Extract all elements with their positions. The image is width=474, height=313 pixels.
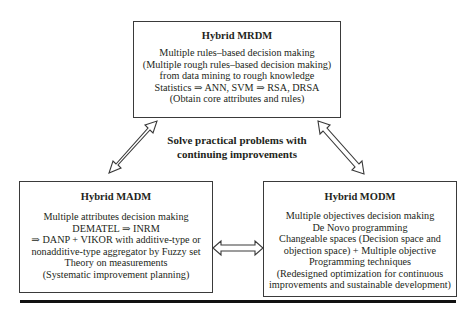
modm-line: improvements and sustainable development… xyxy=(264,279,456,291)
madm-line: nonadditive-type aggregator by Fuzzy set xyxy=(20,246,212,258)
mrdm-line: from data mining to rough knowledge xyxy=(134,70,340,82)
modm-line: De Novo programming xyxy=(264,222,456,234)
hybrid-modm-title: Hybrid MODM xyxy=(264,191,456,202)
madm-line: Multiple attributes decision making xyxy=(20,211,212,223)
modm-line: (Redesigned optimization for continuous xyxy=(264,268,456,280)
modm-line: Programming techniques xyxy=(264,256,456,268)
madm-line: (Systematic improvement planning) xyxy=(20,269,212,281)
center-label-line: Solve practical problems with xyxy=(140,133,334,147)
mrdm-line: Multiple rules–based decision making xyxy=(134,47,340,59)
modm-line: Multiple objectives decision making xyxy=(264,210,456,222)
mrdm-line: (Obtain core attributes and rules) xyxy=(134,93,340,105)
madm-line: Theory on measurements xyxy=(20,257,212,269)
bottom-rule-divider xyxy=(20,300,456,303)
double-arrow-madm-modm xyxy=(213,241,263,255)
madm-line: DEMATEL ⇒ INRM xyxy=(20,223,212,235)
hybrid-mrdm-box: Hybrid MRDM Multiple rules–based decisio… xyxy=(133,21,341,118)
madm-line: ⇒ DANP + VIKOR with additive-type or xyxy=(20,234,212,246)
center-label: Solve practical problems with continuing… xyxy=(140,133,334,161)
modm-line: objection space) + Multiple objective xyxy=(264,245,456,257)
hybrid-mrdm-title: Hybrid MRDM xyxy=(134,30,340,41)
hybrid-madm-box: Hybrid MADM Multiple attributes decision… xyxy=(19,181,213,293)
mrdm-line: Statistics ⇒ ANN, SVM ⇒ RSA, DRSA xyxy=(134,82,340,94)
mrdm-line: (Multiple rough rules–based decision mak… xyxy=(134,59,340,71)
hybrid-modm-box: Hybrid MODM Multiple objectives decision… xyxy=(263,181,457,297)
modm-line: Changeable spaces (Decision space and xyxy=(264,233,456,245)
center-label-line: continuing improvements xyxy=(140,147,334,161)
hybrid-madm-title: Hybrid MADM xyxy=(20,191,212,202)
